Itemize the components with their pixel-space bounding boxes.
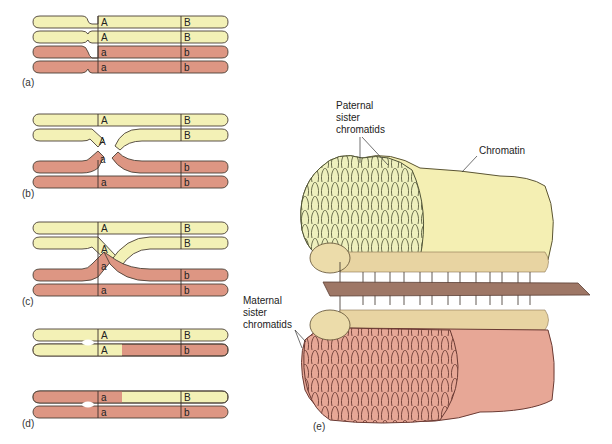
gene-a: a — [101, 392, 107, 403]
gene-A: A — [101, 32, 108, 43]
panel-d: A A B b a a B b (d) — [22, 329, 228, 429]
panel-b: A A a a B B b b (b) — [22, 114, 228, 199]
gene-B: B — [184, 32, 191, 43]
gene-a: a — [101, 177, 107, 188]
gene-b: b — [184, 162, 190, 173]
gene-B: B — [184, 238, 191, 249]
label-paternal: Paternal — [336, 100, 373, 111]
label-paternal: chromatids — [336, 124, 385, 135]
gene-a: a — [100, 154, 106, 165]
panel-a: A A a a B B b b (a) — [22, 16, 228, 88]
gene-b: b — [184, 62, 190, 73]
paternal-chromatid — [33, 31, 228, 43]
gene-A: A — [101, 17, 108, 28]
paternal-centromere — [310, 243, 350, 273]
gene-b: b — [184, 345, 190, 356]
gene-B: B — [184, 17, 191, 28]
gene-a: a — [101, 62, 107, 73]
maternal-chromatid — [33, 61, 228, 73]
gene-B: B — [184, 115, 191, 126]
gene-B: B — [184, 330, 191, 341]
crossing-over-figure: A A a a B B b b (a) A A a a B B b b — [0, 0, 612, 444]
gene-B: B — [184, 130, 191, 141]
gene-A: A — [101, 345, 108, 356]
maternal-chromatid — [33, 46, 228, 58]
gene-a: a — [101, 285, 107, 296]
metaphase-plate — [323, 282, 590, 296]
gene-b: b — [184, 47, 190, 58]
panel-label-d: (d) — [22, 418, 34, 429]
gene-A: A — [101, 244, 108, 255]
maternal-centromere — [310, 310, 350, 340]
label-paternal: sister — [336, 112, 361, 123]
gene-b: b — [184, 177, 190, 188]
gene-a: a — [101, 261, 107, 272]
gene-b: b — [184, 285, 190, 296]
paternal-chromatid — [33, 16, 228, 28]
panel-label-e: (e) — [313, 421, 325, 432]
panel-label-c: (c) — [22, 296, 34, 307]
gene-b: b — [184, 270, 190, 281]
label-chromatin: Chromatin — [479, 145, 525, 156]
gene-a: a — [101, 407, 107, 418]
gene-B: B — [184, 223, 191, 234]
label-maternal: chromatids — [243, 319, 292, 330]
panel-c: A A a a B B b b (c) — [22, 222, 228, 307]
gene-A: A — [101, 115, 108, 126]
gene-A: A — [101, 223, 108, 234]
label-maternal: sister — [243, 307, 268, 318]
gene-a: a — [101, 47, 107, 58]
panel-label-a: (a) — [22, 77, 34, 88]
panel-e: Paternal sister chromatids Chromatin Mat… — [243, 100, 590, 432]
gene-A: A — [101, 330, 108, 341]
gene-b: b — [184, 407, 190, 418]
gene-A: A — [99, 136, 106, 147]
panel-label-b: (b) — [22, 188, 34, 199]
label-maternal: Maternal — [243, 295, 282, 306]
gene-B: B — [184, 392, 191, 403]
